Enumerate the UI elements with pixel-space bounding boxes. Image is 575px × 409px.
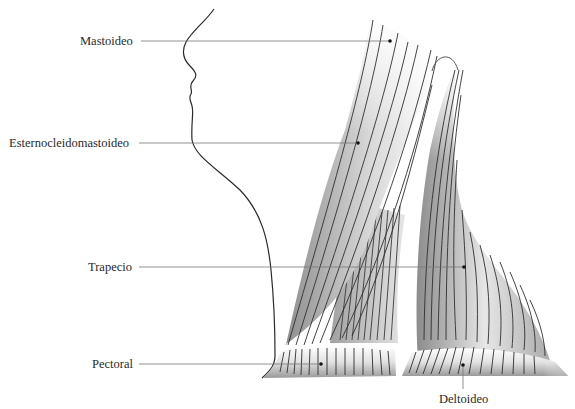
pectoral-marker-dot <box>319 362 323 366</box>
esternocleidomastoideo-marker-dot <box>356 141 360 145</box>
deltoideo-marker-dot <box>461 363 465 367</box>
muscle-diagram <box>0 0 575 409</box>
label-trapecio: Trapecio <box>88 260 132 274</box>
label-deltoideo: Deltoideo <box>439 392 488 406</box>
label-esternocleidomastoideo: Esternocleidomastoideo <box>9 136 129 150</box>
face-profile-outline <box>183 9 275 378</box>
trapecio-marker-dot <box>462 265 466 269</box>
trapecio-muscle <box>417 70 554 370</box>
label-pectoral: Pectoral <box>92 357 133 371</box>
pectoral-muscle <box>263 346 396 378</box>
mastoideo-marker-dot <box>388 39 392 43</box>
label-mastoideo: Mastoideo <box>80 34 133 48</box>
